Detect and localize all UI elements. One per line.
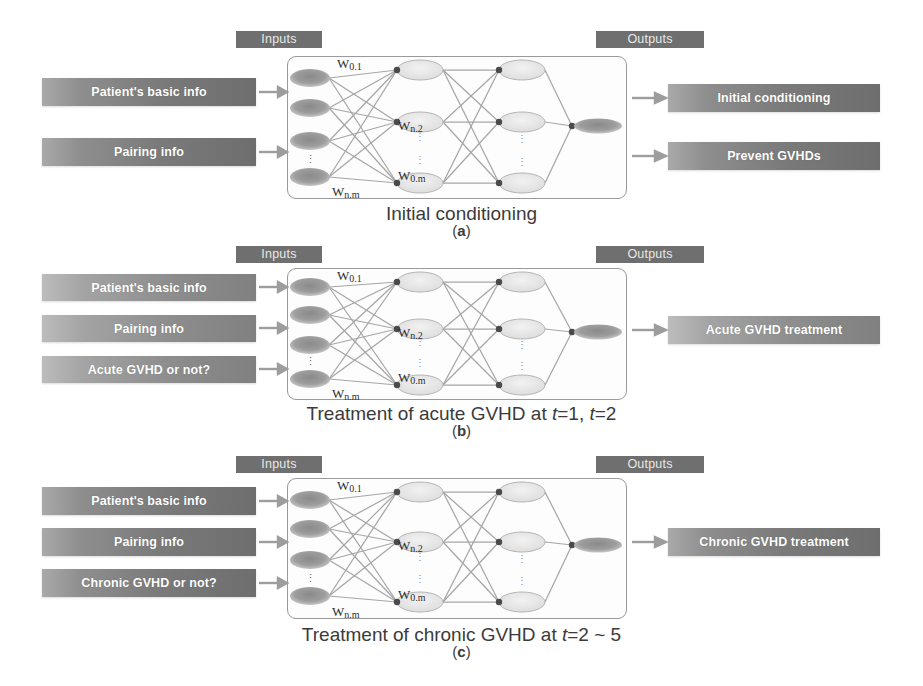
input-layer-dots-b: ⋮ [305,355,316,367]
hidden-layer-2-nodes-a: ⋮ ⋮ [496,60,545,193]
caption-b-suffix: =2 [595,403,617,424]
panel-c: Inputs Outputs Patient's basic info Pair… [0,432,923,686]
svg-text:⋮: ⋮ [415,357,425,368]
panel-b: Inputs Outputs Patient's basic info Pair… [0,232,923,432]
weight-label-w01-a: W0.1 [337,56,362,72]
weight-label-wnm-b: Wn.m [332,386,360,402]
svg-text:⋮: ⋮ [517,360,527,371]
weight-label-wnm-a: Wn.m [332,184,360,200]
panel-a: Inputs Outputs Patient's basic info Pair… [0,0,923,232]
input-layer-nodes-a: ⋮ [290,69,330,186]
weight-label-w0m-c: W0.m [398,587,426,603]
panel-letter-c: (c) [0,643,923,660]
edges-input-hidden1-a [329,70,397,183]
edges-hidden1-hidden2-b [443,282,499,385]
input-layer-dots-c: ⋮ [305,572,316,584]
output-layer-node-b [569,325,622,340]
svg-text:⋮: ⋮ [517,575,527,586]
svg-text:⋮: ⋮ [517,339,527,350]
output-layer-node-a [569,119,622,134]
input-layer-nodes-c: ⋮ [290,491,330,605]
edges-hidden2-output-a [545,70,572,183]
edges-input-hidden1-c [329,492,397,602]
edges-hidden2-output-c [545,492,572,602]
svg-text:⋮: ⋮ [415,573,425,584]
weight-label-w0m-b: W0.m [398,370,426,386]
hidden-layer-2-nodes-c: ⋮ ⋮ [496,482,545,612]
svg-text:⋮: ⋮ [415,154,425,165]
output-layer-node-c [569,538,622,553]
edges-hidden1-hidden2-a [443,70,499,183]
weight-label-w0m-a: W0.m [398,168,426,184]
network-graphic-a: ⋮ ⋮ ⋮ ⋮ ⋮ W0.1 [0,0,923,232]
caption-c-suffix: =2 ~ 5 [567,624,621,645]
network-graphic-b: ⋮ ⋮ ⋮ ⋮ ⋮ W0.1 Wn.2 W0.m W [0,232,923,432]
weight-label-w01-b: W0.1 [337,268,362,284]
svg-text:⋮: ⋮ [517,553,527,564]
panel-letter-c-text: c [457,643,465,660]
caption-c-prefix: Treatment of chronic GVHD at [302,624,562,645]
input-layer-nodes-b: ⋮ [290,278,330,388]
svg-text:⋮: ⋮ [517,156,527,167]
edges-hidden2-output-b [545,282,572,385]
caption-b-mid: =1, [557,403,589,424]
input-arrows-c [259,496,287,588]
output-arrows-c [632,537,666,547]
caption-b-prefix: Treatment of acute GVHD at [307,403,552,424]
weight-label-w01-c: W0.1 [337,478,362,494]
edges-input-hidden1-b [329,282,397,385]
input-arrows-a [259,87,287,157]
weight-label-wnm-c: Wn.m [332,604,360,620]
svg-text:⋮: ⋮ [517,133,527,144]
edges-hidden1-hidden2-c [443,492,499,602]
output-arrows-b [632,325,666,335]
input-arrows-b [259,282,287,374]
output-arrows-a [632,93,666,161]
input-layer-dots-a: ⋮ [305,153,316,165]
hidden-layer-2-nodes-b: ⋮ ⋮ [496,272,545,395]
